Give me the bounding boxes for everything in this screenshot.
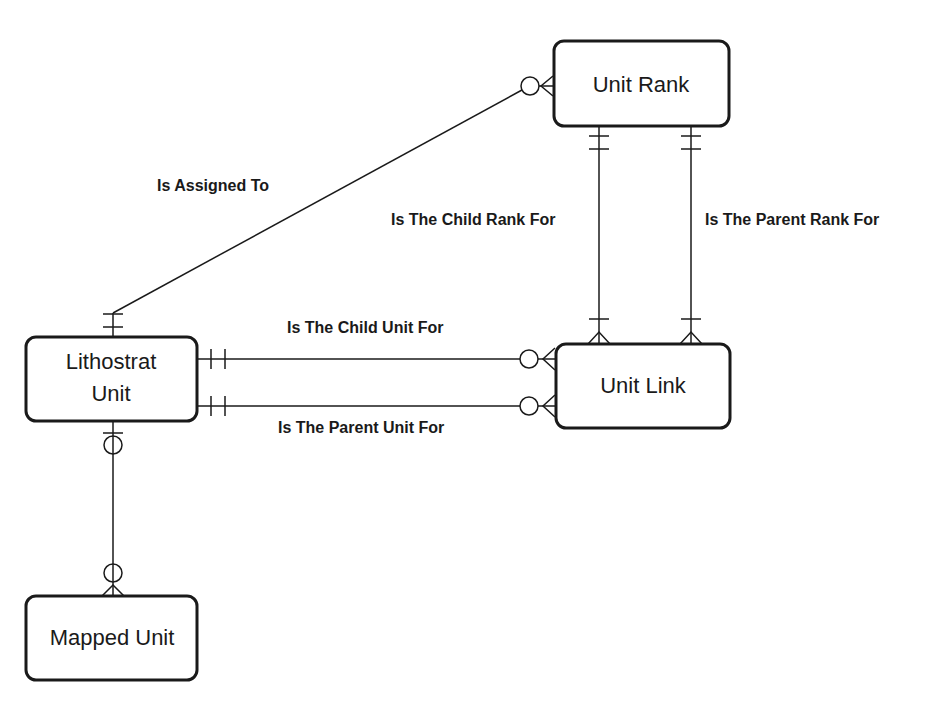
entity-lithostrat-unit[interactable]: Lithostrat Unit [26,337,197,421]
relationship-is-the-child-rank-for: Is The Child Rank For [391,126,610,344]
relationship-label: Is The Child Rank For [391,211,555,228]
entity-label-line2: Unit [91,381,130,406]
entity-mapped-unit[interactable]: Mapped Unit [26,596,197,680]
er-diagram: Is Assigned To Is The Child Rank For Is … [0,0,937,706]
relationship-is-assigned-to: Is Assigned To [103,76,553,336]
relationship-label: Is The Child Unit For [287,319,443,336]
entity-unit-rank[interactable]: Unit Rank [554,41,729,126]
relationship-is-the-child-unit-for: Is The Child Unit For [197,319,555,370]
entity-label-line1: Lithostrat [66,349,157,374]
zero-circle-icon [521,77,539,95]
zero-circle-icon [520,397,538,415]
relationship-label: Is The Parent Unit For [278,419,444,436]
entity-label: Mapped Unit [50,625,175,650]
relationship-label: Is Assigned To [157,177,269,194]
relationship-is-the-parent-unit-for: Is The Parent Unit For [197,395,555,436]
entity-label: Unit Rank [593,72,691,97]
entity-label: Unit Link [600,373,687,398]
relationship-is-the-parent-rank-for: Is The Parent Rank For [680,126,879,344]
connector-line [113,90,522,313]
relationship-label: Is The Parent Rank For [705,211,879,228]
entity-unit-link[interactable]: Unit Link [556,344,730,428]
zero-circle-icon [520,350,538,368]
relationship-lithostrat-to-mapped-unit [102,421,124,596]
